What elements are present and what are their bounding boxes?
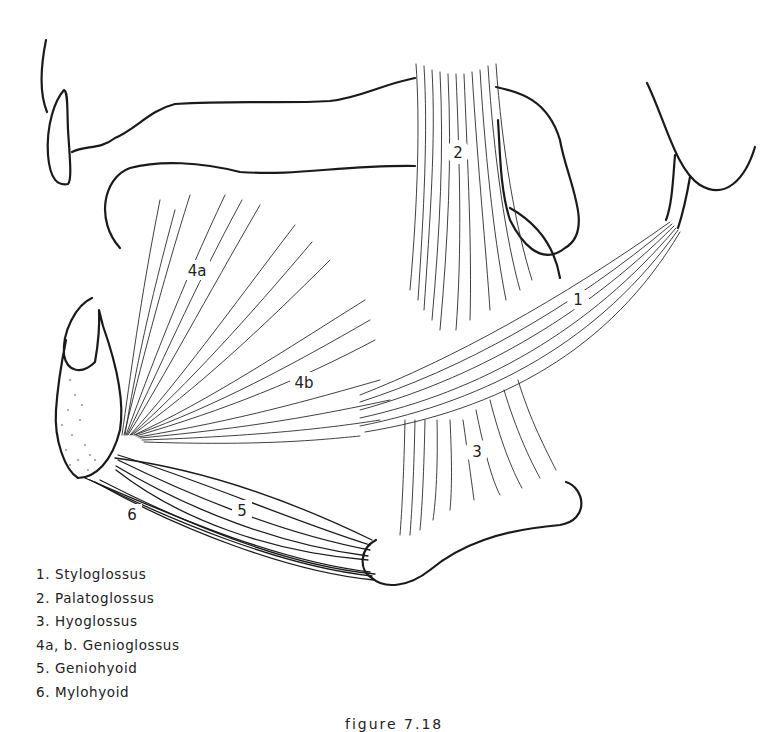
styloid-process-outline [666,155,690,228]
label-6: 6 [122,504,142,524]
legend-item: 5. Geniohyoid [36,657,180,681]
label-2: 2 [446,140,470,164]
mandible-symphysis-outline [56,298,122,478]
label-1: 1 [567,288,589,310]
label-5: 5 [232,500,252,520]
label-4a: 4a [184,260,210,280]
tongue-back-outline [510,208,560,278]
legend-item: 3. Hyoglossus [36,610,180,634]
incisor-outline [48,90,71,184]
palatoglossus-fibers [410,64,532,330]
label-3: 3 [465,439,489,463]
svg-text:4b: 4b [294,374,313,392]
svg-text:5: 5 [237,502,247,520]
label-4b: 4b [290,372,318,392]
figure-caption: figure 7.18 [345,716,443,732]
styloglossus-fibers [360,222,680,432]
svg-text:4a: 4a [188,262,207,280]
stipple-texture [61,369,96,471]
pharynx-outline [647,83,755,190]
genioglossus-fibers [122,195,390,443]
svg-text:1: 1 [573,291,583,309]
legend-item: 4a, b. Genioglossus [36,634,180,658]
svg-text:2: 2 [453,144,463,162]
legend-item: 2. Palatoglossus [36,587,180,611]
svg-text:3: 3 [472,443,482,461]
svg-text:6: 6 [127,506,137,524]
muscle-legend: 1. Styloglossus 2. Palatoglossus 3. Hyog… [36,563,180,704]
legend-item: 6. Mylohyoid [36,681,180,705]
hyoid-bone-outline [363,482,582,585]
legend-item: 1. Styloglossus [36,563,180,587]
hard-palate-outline [42,40,415,152]
